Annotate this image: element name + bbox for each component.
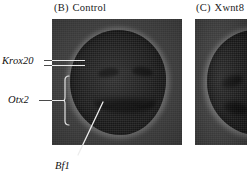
- panel-c-tag: (C): [196, 2, 211, 13]
- stain-bf1-shading: [98, 96, 152, 105]
- panel-b-tag: (B): [54, 2, 69, 13]
- panel-c-micrograph: [195, 19, 247, 145]
- panel-b-micrograph: [52, 19, 182, 145]
- embryo-body-c: [207, 30, 247, 135]
- figure-root: (B)Control (C)Xwnt8 Krox20: [0, 0, 247, 179]
- panel-b-title: Control: [73, 2, 107, 13]
- stain-krox20-left: [98, 67, 120, 78]
- otx2-leader-line-outer: [39, 100, 53, 101]
- stain-panel-c-lower: [223, 100, 247, 117]
- panel-b-caption: (B)Control: [54, 2, 106, 13]
- panel-c-caption: (C)Xwnt8: [196, 2, 244, 13]
- gene-label-otx2: Otx2: [8, 94, 29, 105]
- embryo-texture-b: [70, 30, 166, 135]
- gene-label-bf1: Bf1: [55, 160, 70, 171]
- stain-krox20-right: [132, 66, 154, 77]
- stain-panel-c-upper: [220, 73, 244, 90]
- embryo-body-b: [70, 30, 166, 135]
- gene-label-krox20: Krox20: [2, 55, 34, 66]
- panel-c-title: Xwnt8: [215, 2, 245, 13]
